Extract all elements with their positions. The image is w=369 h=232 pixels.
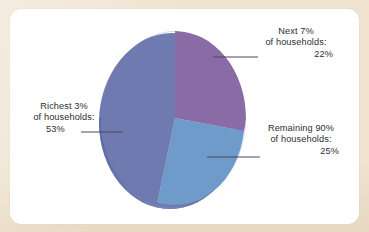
callout-richest-value: 53% bbox=[18, 124, 110, 135]
callout-next-value: 22% bbox=[248, 49, 344, 60]
callout-label-remaining: Remaining 90% of households: 25% bbox=[249, 123, 353, 157]
pie-slice-next[interactable] bbox=[175, 31, 246, 131]
callout-richest-line2: of households: bbox=[18, 112, 110, 123]
callout-next-line1: Next 7% bbox=[248, 26, 344, 37]
pie-chart: Next 7% of households: 22% Remaining 90%… bbox=[0, 0, 369, 232]
callout-label-richest: Richest 3% of households: 53% bbox=[18, 101, 110, 135]
callout-remaining-line1: Remaining 90% bbox=[249, 123, 353, 134]
callout-label-next: Next 7% of households: 22% bbox=[248, 26, 344, 60]
callout-remaining-value: 25% bbox=[249, 146, 353, 157]
callout-richest-line1: Richest 3% bbox=[18, 101, 110, 112]
callout-remaining-line2: of households: bbox=[249, 134, 353, 145]
figure-root: Next 7% of households: 22% Remaining 90%… bbox=[0, 0, 369, 232]
callout-next-line2: of households: bbox=[248, 37, 344, 48]
